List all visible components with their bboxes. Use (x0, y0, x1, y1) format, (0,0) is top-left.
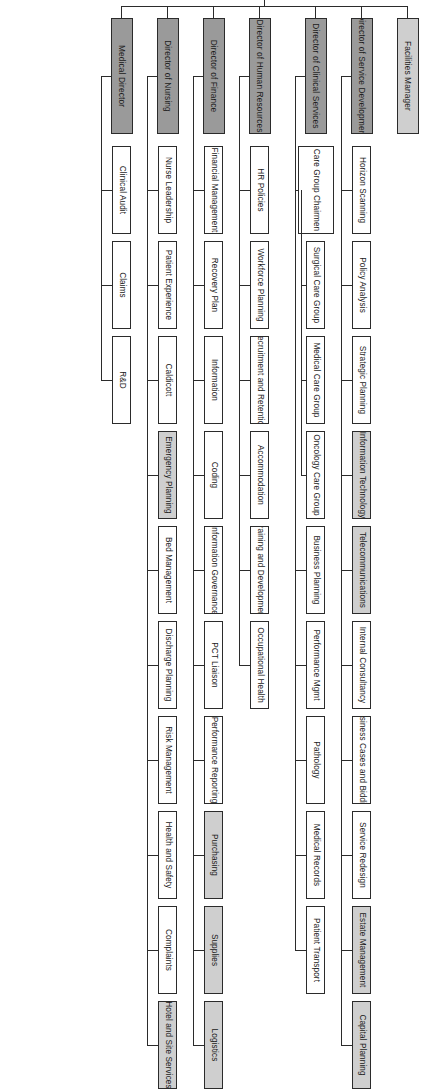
node-complaints[interactable]: Complaints (159, 906, 178, 994)
node-training-and-development[interactable]: Training and Development (251, 526, 270, 614)
connector-line (341, 950, 353, 951)
node-hotel-and-site-services-label: Hotel and Site Services (164, 1001, 173, 1088)
node-medical-care-group[interactable]: Medical Care Group (307, 336, 326, 424)
node-logistics[interactable]: Logistics (205, 1001, 224, 1089)
node-nurse-leadership[interactable]: Nurse Leadership (159, 146, 178, 234)
director-box-director-of-service-development[interactable]: Director of Service Development (351, 18, 373, 134)
connector-line (341, 855, 353, 856)
node-occupational-health[interactable]: Occupational Health (251, 621, 270, 709)
node-accommodation-label: Accommodation (256, 445, 265, 505)
connector-line (341, 76, 342, 1045)
director-box-facilities-manager-label: Facilities Manager (404, 41, 413, 111)
node-purchasing[interactable]: Purchasing (205, 811, 224, 899)
node-discharge-planning[interactable]: Discharge Planning (159, 621, 178, 709)
connector-line (239, 380, 251, 381)
connector-line (121, 6, 122, 18)
node-patient-transport[interactable]: Patient Transport (307, 906, 326, 994)
node-r-d[interactable]: R&D (113, 336, 132, 424)
node-recovery-plan[interactable]: Recovery Plan (205, 241, 224, 329)
node-estate-management[interactable]: Estate Management (353, 906, 372, 994)
node-risk-management-label: Risk Management (164, 726, 173, 793)
connector-line (147, 285, 159, 286)
node-strategic-planning[interactable]: Strategic Planning (353, 336, 372, 424)
node-medical-records-label: Medical Records (312, 824, 321, 886)
node-accommodation[interactable]: Accommodation (251, 431, 270, 519)
node-estate-management-label: Estate Management (358, 913, 367, 988)
node-care-group-chairmen[interactable]: Care Group Chairmen (298, 146, 334, 234)
director-box-facilities-manager[interactable]: Facilities Manager (397, 18, 419, 134)
node-internal-consultancy-label: Internal Consultancy (358, 627, 367, 704)
node-workforce-planning-label: Workforce Planning (256, 248, 265, 321)
node-telecommunications[interactable]: Telecommunications (353, 526, 372, 614)
connector-line (302, 380, 307, 381)
node-nurse-leadership-label: Nurse Leadership (164, 157, 173, 223)
node-performance-reporting[interactable]: Performance Reporting (205, 716, 224, 804)
node-capital-planning[interactable]: Capital Planning (353, 1001, 372, 1089)
director-box-director-of-clinical-services[interactable]: Director of Clinical Services (305, 18, 327, 134)
connector-line (213, 6, 214, 18)
node-coding-label: Coding (210, 462, 219, 489)
node-emergency-planning-label: Emergency Planning (164, 436, 173, 513)
node-claims[interactable]: Claims (113, 241, 132, 329)
node-pct-liaison[interactable]: PCT Liaison (205, 621, 224, 709)
connector-line (193, 76, 203, 77)
node-information-technology[interactable]: Information Technology (353, 431, 372, 519)
node-information-governance[interactable]: Information Governance (205, 526, 224, 614)
connector-line (101, 76, 111, 77)
node-hotel-and-site-services[interactable]: Hotel and Site Services (159, 1001, 178, 1089)
node-business-cases-and-bidding-label: Business Cases and Bidding (358, 716, 367, 804)
node-medical-records[interactable]: Medical Records (307, 811, 326, 899)
connector-line (341, 380, 353, 381)
node-risk-management[interactable]: Risk Management (159, 716, 178, 804)
node-surgical-care-group[interactable]: Surgical Care Group (307, 241, 326, 329)
connector-line (193, 1045, 205, 1046)
connector-line (193, 475, 205, 476)
node-workforce-planning[interactable]: Workforce Planning (251, 241, 270, 329)
connector-line (193, 570, 205, 571)
node-policy-analysis[interactable]: Policy Analysis (353, 241, 372, 329)
node-coding[interactable]: Coding (205, 431, 224, 519)
connector-line (341, 570, 353, 571)
node-information[interactable]: Information (205, 336, 224, 424)
node-service-redesign[interactable]: Service Redesign (353, 811, 372, 899)
connector-line (193, 380, 205, 381)
node-oncology-care-group[interactable]: Oncology Care Group (307, 431, 326, 519)
node-emergency-planning[interactable]: Emergency Planning (159, 431, 178, 519)
node-business-cases-and-bidding[interactable]: Business Cases and Bidding (353, 716, 372, 804)
connector-line (295, 760, 307, 761)
node-internal-consultancy[interactable]: Internal Consultancy (353, 621, 372, 709)
connector-line (147, 570, 159, 571)
node-pathology[interactable]: Pathology (307, 716, 326, 804)
node-recruitment-and-retention[interactable]: Recruitment and Retention (251, 336, 270, 424)
connector-line (295, 76, 305, 77)
node-health-and-safety[interactable]: Health and Safety (159, 811, 178, 899)
node-bed-management[interactable]: Bed Management (159, 526, 178, 614)
director-box-director-of-human-resources-label: Director of Human Resources (256, 19, 265, 132)
connector-line (193, 855, 205, 856)
connector-line (147, 475, 159, 476)
director-box-director-of-nursing[interactable]: Director of Nursing (157, 18, 179, 134)
connector-line (341, 1045, 353, 1046)
node-patient-transport-label: Patient Transport (312, 918, 321, 982)
connector-line (193, 76, 194, 1045)
node-supplies[interactable]: Supplies (205, 906, 224, 994)
connector-line (101, 380, 113, 381)
director-box-director-of-human-resources[interactable]: Director of Human Resources (249, 18, 271, 134)
connector-line (295, 190, 298, 191)
node-horizon-scanning[interactable]: Horizon Scanning (353, 146, 372, 234)
director-box-medical-director[interactable]: Medical Director (111, 18, 133, 134)
node-caldicott[interactable]: Caldicott (159, 336, 178, 424)
node-business-planning[interactable]: Business Planning (307, 526, 326, 614)
node-patient-experience[interactable]: Patient Experience (159, 241, 178, 329)
node-performance-mgmt[interactable]: Performance Mgmt (307, 621, 326, 709)
node-surgical-care-group-label: Surgical Care Group (312, 247, 321, 324)
connector-line (193, 190, 205, 191)
director-box-director-of-finance[interactable]: Director of Finance (203, 18, 225, 134)
connector-line (239, 285, 251, 286)
connector-line (341, 285, 353, 286)
node-clinical-audit[interactable]: Clinical Audit (113, 146, 132, 234)
node-hr-policies[interactable]: HR Policies (251, 146, 270, 234)
node-financial-management[interactable]: Financial Management (205, 146, 224, 234)
